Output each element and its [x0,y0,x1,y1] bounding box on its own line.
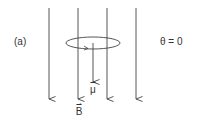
field-symbol: B [76,106,83,117]
moment-label: ⇀ μ [88,80,98,95]
magnetic-dipole-diagram: (a) θ = 0 ⇀ μ ⇀ B [0,0,197,122]
current-direction-arrow-icon [84,46,88,50]
moment-symbol: μ [90,84,96,95]
angle-label: θ = 0 [160,37,183,47]
field-label: ⇀ B [74,102,84,117]
panel-label: (a) [14,37,26,47]
diagram-canvas [0,0,197,122]
